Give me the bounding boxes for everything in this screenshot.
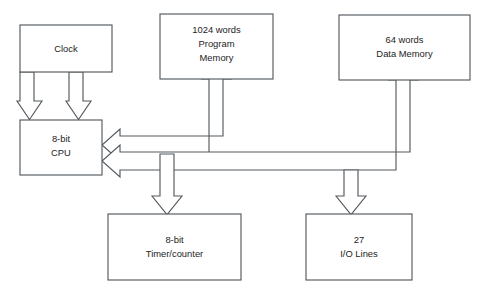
io-lines-block-label-1: I/O Lines — [340, 248, 378, 259]
program-memory-block[interactable]: 1024 words Program Memory — [160, 14, 273, 79]
program-memory-block-label-1: Program — [199, 38, 235, 49]
cpu-block-label-1: CPU — [51, 147, 71, 158]
timer-counter-block-label-1: Timer/counter — [146, 248, 203, 259]
timer-counter-block[interactable]: 8-bit Timer/counter — [108, 214, 241, 280]
block-diagram: Clock 1024 words Program Memory 64 words… — [0, 0, 494, 297]
clock-to-cpu-arrow-left — [17, 72, 42, 120]
data-memory-block-label-1: Data Memory — [376, 48, 433, 59]
data-memory-block-label-0: 64 words — [385, 34, 423, 45]
timer-counter-block-label-0: 8-bit — [165, 234, 184, 245]
diagram-canvas: Clock 1024 words Program Memory 64 words… — [0, 0, 494, 297]
data-memory-block[interactable]: 64 words Data Memory — [339, 15, 470, 80]
cpu-block[interactable]: 8-bit CPU — [20, 120, 102, 175]
io-lines-block[interactable]: 27 I/O Lines — [306, 214, 412, 280]
program-memory-block-label-2: Memory — [200, 52, 234, 63]
cpu-io-lines-bus — [336, 170, 366, 215]
clock-block[interactable]: Clock — [20, 25, 112, 72]
io-lines-block-label-0: 27 — [354, 234, 364, 245]
cpu-block-label-0: 8-bit — [52, 133, 71, 144]
io-lines-block-outline — [306, 214, 412, 280]
clock-to-cpu-arrow-right — [66, 72, 91, 120]
timer-counter-block-outline — [108, 214, 241, 280]
clock-block-label-0: Clock — [54, 43, 78, 54]
program-memory-block-label-0: 1024 words — [192, 24, 241, 35]
